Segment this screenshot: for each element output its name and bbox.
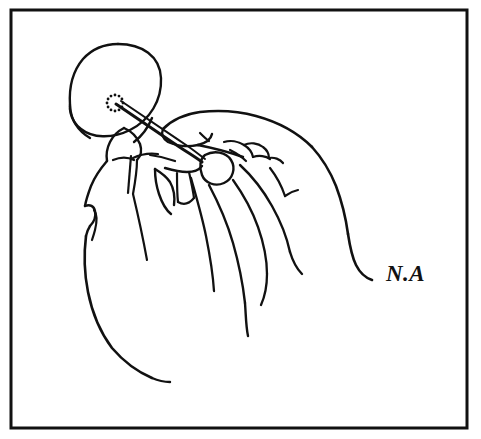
artist-signature: N.A [385,261,425,286]
artwork-canvas: N.A [0,0,481,439]
line-drawing: N.A [0,0,481,439]
paper-background [0,0,481,439]
